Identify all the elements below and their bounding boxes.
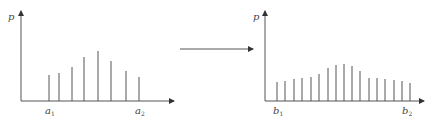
right-x-label-end: b2 xyxy=(402,105,412,117)
left-bars xyxy=(49,51,139,101)
left-x-label-end: a2 xyxy=(135,105,145,117)
right-bars xyxy=(277,64,410,101)
left-distribution-chart: p a1 a2 xyxy=(8,11,174,117)
right-distribution-chart: p b1 b2 xyxy=(253,11,424,117)
right-x-label-start: b1 xyxy=(273,105,283,117)
diagram-canvas: p a1 a2 p b1 b2 xyxy=(0,0,430,125)
right-y-label: p xyxy=(253,11,260,22)
left-y-label: p xyxy=(8,11,15,22)
left-x-label-start: a1 xyxy=(45,105,55,117)
